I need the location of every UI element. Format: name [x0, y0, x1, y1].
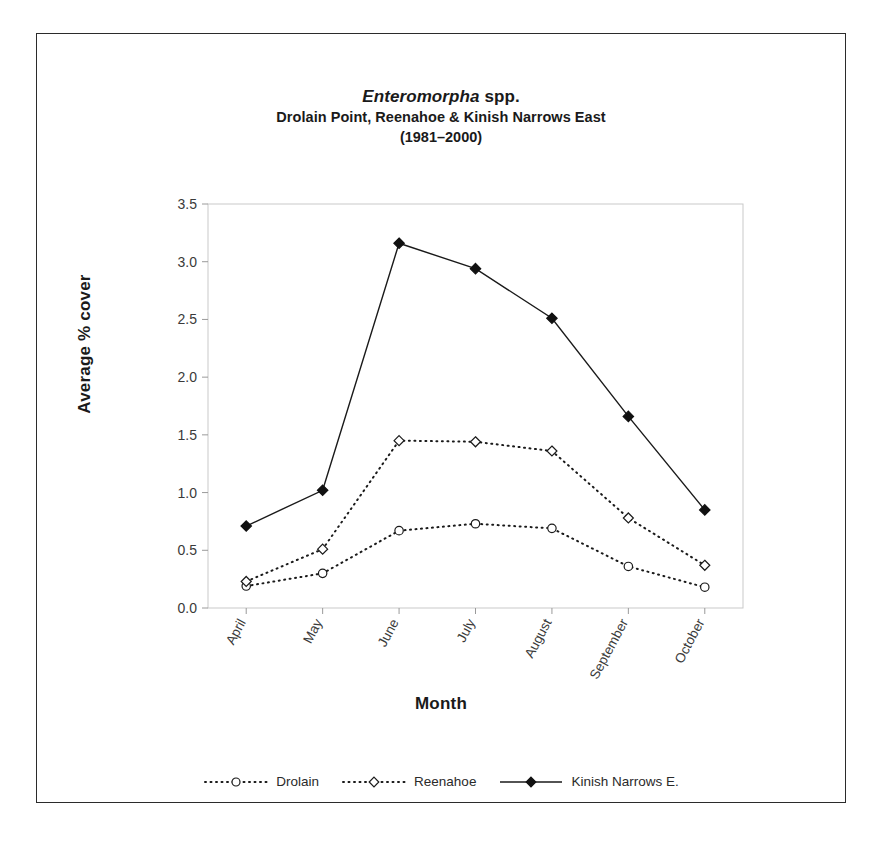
x-tick-label: October	[672, 616, 708, 666]
y-tick-label: 3.0	[178, 254, 198, 270]
data-point-marker	[471, 437, 481, 447]
data-point-marker	[395, 526, 403, 534]
x-tick-label: April	[223, 616, 249, 647]
data-point-marker	[700, 505, 710, 515]
legend-label-kinish-narrows-e: Kinish Narrows E.	[571, 774, 678, 789]
series-line-drolain	[246, 524, 705, 587]
y-tick-label: 0.0	[178, 600, 198, 616]
y-tick-label: 1.0	[178, 485, 198, 501]
chart-svg: 0.00.51.01.52.02.53.03.5AprilMayJuneJuly…	[37, 34, 847, 804]
x-axis-label: Month	[37, 694, 845, 714]
plot-area: 0.00.51.01.52.02.53.03.5AprilMayJuneJuly…	[37, 34, 885, 858]
legend-marker-kinish-narrows-e	[527, 777, 537, 787]
x-tick-label: September	[587, 616, 631, 682]
series-line-reenahoe	[246, 441, 705, 582]
legend-swatch-drolain	[203, 775, 269, 789]
legend-item-kinish-narrows-e[interactable]: Kinish Narrows E.	[498, 774, 678, 789]
data-point-marker	[471, 520, 479, 528]
chart-title-block: Enteromorpha spp. Drolain Point, Reenaho…	[37, 86, 845, 147]
data-point-marker	[547, 313, 557, 323]
data-point-marker	[317, 485, 327, 495]
data-point-marker	[700, 560, 710, 570]
data-point-marker	[241, 521, 251, 531]
data-point-marker	[242, 582, 250, 590]
data-point-marker	[318, 544, 328, 554]
data-point-marker	[623, 513, 633, 523]
data-point-marker	[318, 569, 326, 577]
figure-frame: Enteromorpha spp. Drolain Point, Reenaho…	[36, 33, 846, 803]
chart-year-range: (1981–2000)	[37, 128, 845, 147]
legend-marker-reenahoe	[369, 777, 379, 787]
x-tick-label: August	[522, 616, 555, 660]
data-point-marker	[623, 411, 633, 421]
x-tick-label: July	[454, 616, 479, 644]
legend-marker-drolain	[232, 778, 240, 786]
data-point-marker	[624, 562, 632, 570]
y-tick-label: 1.5	[178, 427, 198, 443]
data-point-marker	[241, 576, 251, 586]
data-point-marker	[547, 446, 557, 456]
y-tick-label: 0.5	[178, 542, 198, 558]
title-genus: Enteromorpha	[362, 87, 479, 106]
legend-swatch-reenahoe	[341, 775, 407, 789]
chart-title: Enteromorpha spp.	[37, 86, 845, 108]
legend-item-drolain[interactable]: Drolain	[203, 774, 319, 789]
x-tick-label: June	[375, 616, 402, 649]
series-line-kinish-narrows-e	[246, 243, 705, 526]
data-point-marker	[548, 524, 556, 532]
chart-legend: DrolainReenahoeKinish Narrows E.	[37, 774, 845, 789]
legend-label-reenahoe: Reenahoe	[414, 774, 476, 789]
data-point-marker	[470, 263, 480, 273]
title-rest: spp.	[480, 87, 520, 106]
plot-border	[208, 204, 743, 608]
legend-item-reenahoe[interactable]: Reenahoe	[341, 774, 476, 789]
data-point-marker	[394, 436, 404, 446]
chart-subtitle: Drolain Point, Reenahoe & Kinish Narrows…	[37, 108, 845, 127]
y-tick-label: 2.5	[178, 311, 198, 327]
legend-swatch-kinish-narrows-e	[498, 775, 564, 789]
x-tick-label: May	[300, 616, 325, 646]
y-axis-label: Average % cover	[75, 234, 95, 454]
y-tick-label: 2.0	[178, 369, 198, 385]
legend-label-drolain: Drolain	[276, 774, 319, 789]
data-point-marker	[701, 583, 709, 591]
y-tick-label: 3.5	[178, 196, 198, 212]
data-point-marker	[394, 238, 404, 248]
